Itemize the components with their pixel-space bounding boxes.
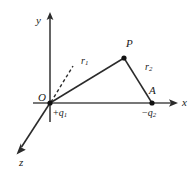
z-axis-label: z [19, 157, 23, 168]
x-axis-label: x [182, 97, 187, 108]
r1-segment-label: r1 [81, 56, 88, 67]
r1-label-subscript: 1 [85, 59, 88, 66]
charge-q1-subscript: 1 [64, 111, 67, 118]
p-point-marker [121, 55, 126, 60]
charge-q1-label: +q1 [53, 108, 67, 119]
r2-segment-label: r2 [145, 62, 152, 73]
a-point-marker [149, 100, 154, 105]
z-axis-arrowhead-icon [17, 143, 26, 154]
origin-point-marker [47, 100, 52, 105]
y-axis-label: y [36, 15, 41, 26]
dashed-reference-ray [51, 66, 73, 102]
p-point-label: P [126, 38, 133, 49]
r2-label-subscript: 2 [149, 65, 152, 72]
charge-q2-subscript: 2 [153, 111, 156, 118]
physics-diagram-figure: y x z O P A r1 r2 +q1 −q2 [0, 0, 195, 175]
charge-q2-label: −q2 [142, 108, 156, 119]
diagram-canvas [0, 0, 195, 175]
z-axis-line [22, 103, 51, 147]
origin-point-label: O [38, 92, 46, 103]
a-point-label: A [149, 85, 156, 96]
